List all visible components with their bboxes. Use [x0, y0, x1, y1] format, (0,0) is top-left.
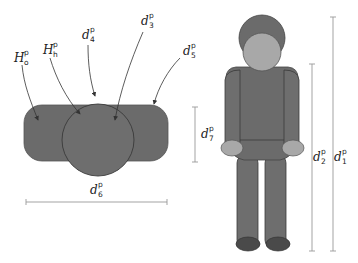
head-circle-top [62, 104, 134, 176]
label-d-3: d p 3 [141, 11, 154, 30]
label-d-5: d p 5 [183, 41, 196, 60]
arrow-d-4 [88, 45, 95, 96]
label-d-2: d p 2 [313, 147, 326, 166]
arrow-d-5 [154, 58, 180, 104]
svg-text:p: p [90, 25, 95, 34]
label-H-h: H p h [42, 40, 58, 59]
right-leg [265, 155, 286, 248]
svg-text:2: 2 [321, 157, 326, 166]
label-d-6: d p 6 [90, 180, 103, 199]
label-d-4: d p 4 [82, 25, 95, 44]
svg-text:h: h [53, 50, 58, 59]
svg-text:d: d [90, 183, 98, 197]
svg-text:7: 7 [209, 134, 214, 143]
top-view: H p o H p h d p 4 d p 3 d p 5 d p [13, 11, 214, 205]
svg-text:p: p [321, 147, 326, 156]
svg-text:p: p [53, 40, 58, 49]
right-shoe [266, 237, 290, 251]
svg-text:o: o [24, 58, 29, 67]
svg-text:d: d [183, 44, 191, 58]
face [243, 33, 281, 71]
svg-text:p: p [342, 147, 347, 156]
svg-text:d: d [141, 14, 149, 28]
svg-text:6: 6 [98, 190, 103, 199]
left-leg [237, 155, 258, 248]
svg-text:4: 4 [90, 35, 95, 44]
label-d-1: d p 1 [334, 147, 347, 166]
svg-text:5: 5 [191, 51, 196, 60]
svg-text:p: p [209, 124, 214, 133]
svg-text:d: d [201, 127, 209, 141]
svg-text:d: d [313, 150, 321, 164]
svg-text:d: d [334, 150, 342, 164]
svg-text:p: p [149, 11, 154, 20]
svg-text:1: 1 [342, 157, 347, 166]
label-d-7: d p 7 [201, 124, 214, 143]
pedestrian-dimension-diagram: H p o H p h d p 4 d p 3 d p 5 d p [0, 0, 358, 263]
front-view: d p 2 d p 1 [221, 15, 347, 251]
left-hand [221, 140, 243, 156]
left-arm [225, 70, 240, 145]
svg-text:p: p [98, 180, 103, 189]
right-hand [282, 140, 304, 156]
svg-text:d: d [82, 28, 90, 42]
label-H-o: H p o [13, 48, 29, 67]
svg-text:p: p [191, 41, 196, 50]
svg-text:3: 3 [149, 21, 154, 30]
right-arm [284, 70, 299, 145]
svg-text:p: p [24, 48, 29, 57]
left-shoe [236, 237, 260, 251]
